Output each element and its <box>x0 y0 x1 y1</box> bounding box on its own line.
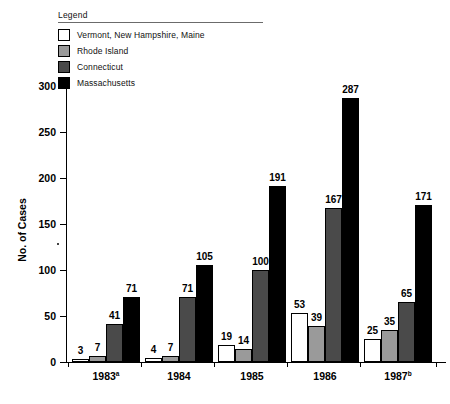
bar-value-label: 71 <box>126 283 137 294</box>
x-axis-tick <box>68 362 69 367</box>
bar-value-label: 19 <box>221 331 232 342</box>
x-axis-label: 1983a <box>93 370 120 382</box>
bar <box>162 356 179 362</box>
bar-value-label: 53 <box>294 299 305 310</box>
bar <box>145 358 162 362</box>
bar <box>308 326 325 362</box>
x-axis-tick <box>141 362 142 367</box>
x-axis-tick <box>214 362 215 367</box>
bar <box>342 98 359 362</box>
x-axis-label-text: 1984 <box>167 370 190 382</box>
bar-value-label: 287 <box>342 84 359 95</box>
bar <box>123 297 140 362</box>
bar-value-label: 191 <box>269 172 286 183</box>
bar <box>106 324 123 362</box>
bar-value-label: 35 <box>384 316 395 327</box>
bar-value-label: 41 <box>109 310 120 321</box>
bar-value-label: 14 <box>238 335 249 346</box>
bar-value-label: 4 <box>151 344 157 355</box>
bar-value-label: 171 <box>415 191 432 202</box>
bar-value-label: 25 <box>367 325 378 336</box>
bar <box>72 359 89 362</box>
x-axis-label-text: 1983 <box>93 370 116 382</box>
bar <box>325 208 342 362</box>
x-axis-label-footnote: a <box>116 370 120 377</box>
bar <box>269 186 286 362</box>
x-axis-label-text: 1987 <box>384 370 407 382</box>
x-axis-label: 1987b <box>384 370 411 382</box>
bar-value-label: 65 <box>401 288 412 299</box>
bar <box>252 270 269 362</box>
bar <box>398 302 415 362</box>
x-axis-line <box>66 362 446 363</box>
x-axis-tick <box>436 362 437 367</box>
bar-value-label: 7 <box>168 342 174 353</box>
x-axis-tick <box>287 362 288 367</box>
bar-chart: No. of Cases 050100150200250300 1983a198… <box>0 0 450 404</box>
bar <box>89 356 106 362</box>
bars-layer <box>0 0 450 362</box>
bar-value-label: 3 <box>78 345 84 356</box>
bar-value-label: 39 <box>311 312 322 323</box>
bar <box>364 339 381 362</box>
bar <box>235 349 252 362</box>
x-axis-label: 1985 <box>240 370 263 382</box>
x-axis-tick <box>360 362 361 367</box>
x-axis-label: 1984 <box>167 370 190 382</box>
x-axis-label: 1986 <box>313 370 336 382</box>
bar-value-label: 71 <box>182 283 193 294</box>
bar <box>381 330 398 362</box>
x-axis-label-text: 1985 <box>240 370 263 382</box>
x-axis-label-text: 1986 <box>313 370 336 382</box>
x-axis-label-footnote: b <box>408 370 412 377</box>
bar <box>196 265 213 362</box>
bar-value-label: 105 <box>196 251 213 262</box>
bar <box>415 205 432 362</box>
bar-value-label: 100 <box>252 256 269 267</box>
bar-value-label: 7 <box>95 342 101 353</box>
y-axis-tick <box>60 362 66 363</box>
bar <box>218 345 235 362</box>
bar <box>291 313 308 362</box>
bar <box>179 297 196 362</box>
bar-value-label: 167 <box>325 194 342 205</box>
